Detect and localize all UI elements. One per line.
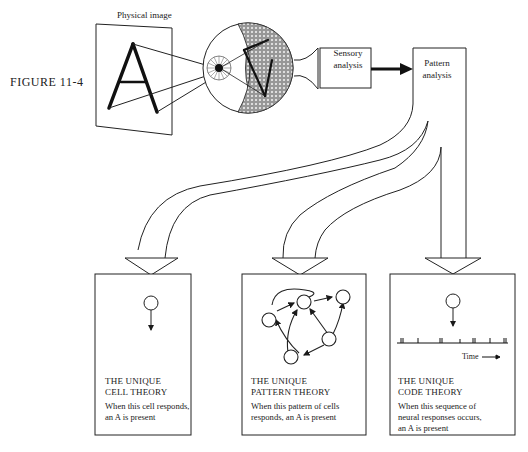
panel-title: THE UNIQUECODE THEORY xyxy=(398,376,518,398)
physical-image-label: Physical image xyxy=(117,10,172,20)
panel-title: THE UNIQUECELL THEORY xyxy=(105,376,225,398)
pattern-analysis-label: Pattern analysis xyxy=(412,57,462,81)
code-theory-text: THE UNIQUECODE THEORY When this sequence… xyxy=(398,376,518,434)
figure-label: FIGURE 11-4 xyxy=(10,75,83,90)
sensory-analysis-label: Sensory analysis xyxy=(322,47,374,71)
pattern-line1: Pattern xyxy=(412,57,462,69)
physical-image-plane xyxy=(96,24,218,135)
panel-description: When this pattern of cellsresponds, an A… xyxy=(251,401,371,423)
optic-connector xyxy=(294,48,318,89)
eye-icon xyxy=(203,23,293,113)
arrow-to-pattern-theory xyxy=(272,121,441,275)
pattern-line2: analysis xyxy=(412,69,462,81)
sensory-line2: analysis xyxy=(322,59,374,71)
sensory-line1: Sensory xyxy=(322,47,374,59)
arrow-to-code-theory xyxy=(425,147,481,274)
time-axis-label: Time xyxy=(462,352,479,361)
panel-description: When this cell responds,an A is present xyxy=(105,401,225,423)
panel-description: When this sequence ofneural responses oc… xyxy=(398,401,518,434)
pattern-theory-text: THE UNIQUEPATTERN THEORY When this patte… xyxy=(251,376,371,423)
panel-title: THE UNIQUEPATTERN THEORY xyxy=(251,376,371,398)
cell-theory-text: THE UNIQUECELL THEORY When this cell res… xyxy=(105,376,225,423)
